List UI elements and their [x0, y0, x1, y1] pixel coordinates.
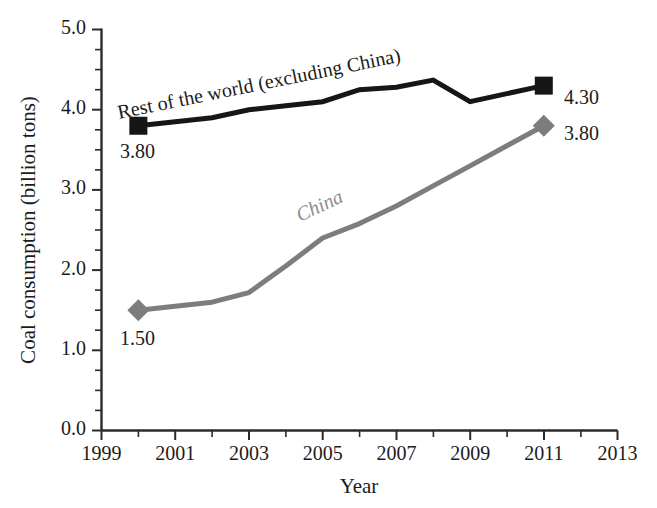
world-start-value-label: 3.80: [120, 140, 155, 162]
annotation-china: China: [292, 185, 346, 226]
x-tick-label-2013: 2013: [598, 442, 638, 464]
y-tick-label-5: 5.0: [61, 16, 86, 38]
china-start-value-label: 1.50: [120, 327, 155, 349]
annotation-rest-of-world: Rest of the world (excluding China): [115, 44, 402, 124]
x-ticks: [102, 431, 618, 441]
y-tick-label-0: 0.0: [61, 417, 86, 439]
y-tick-label-4: 4.0: [61, 96, 86, 118]
china-marker: [127, 299, 149, 321]
x-tick-label-2011: 2011: [524, 442, 563, 464]
x-tick-labels: 1999 2001 2003 2005 2007 2009 2011 2013: [82, 442, 638, 464]
x-tick-label-2007: 2007: [377, 442, 417, 464]
series-china: [127, 115, 554, 321]
x-tick-label-2009: 2009: [450, 442, 490, 464]
chart-canvas: 0.0 1.0 2.0 3.0 4.0 5.0 199: [0, 0, 657, 508]
coal-consumption-chart: 0.0 1.0 2.0 3.0 4.0 5.0 199: [0, 0, 657, 508]
china-markers: [127, 115, 554, 321]
y-tick-label-3: 3.0: [61, 176, 86, 198]
x-tick-label-1999: 1999: [82, 442, 122, 464]
world-end-value-label: 4.30: [564, 86, 599, 108]
x-tick-label-2005: 2005: [303, 442, 343, 464]
x-tick-label-2003: 2003: [229, 442, 269, 464]
china-end-value-label: 3.80: [564, 122, 599, 144]
y-tick-labels: 0.0 1.0 2.0 3.0 4.0 5.0: [61, 16, 86, 439]
y-tick-label-1: 1.0: [61, 337, 86, 359]
china-marker: [533, 115, 555, 137]
y-axis-title: Coal consumption (billion tons): [16, 96, 40, 364]
china-line: [138, 126, 543, 310]
rest-of-world-marker: [535, 77, 553, 95]
x-tick-label-2001: 2001: [155, 442, 195, 464]
x-axis-title: Year: [340, 474, 379, 498]
y-tick-label-2: 2.0: [61, 257, 86, 279]
